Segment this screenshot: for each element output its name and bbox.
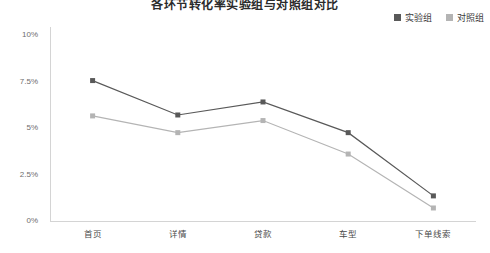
y-tick-label: 0%	[26, 216, 38, 225]
data-point-marker[interactable]	[346, 130, 351, 135]
chart-container: 各环节转化率实验组与对照组对比 实验组 对照组 0%2.5%5%7.5%10% …	[0, 0, 490, 253]
y-axis: 0%2.5%5%7.5%10%	[20, 27, 50, 225]
series-line-control	[93, 116, 434, 208]
x-tick-label: 下单线索	[415, 229, 451, 239]
data-point-marker[interactable]	[261, 118, 266, 123]
data-point-marker[interactable]	[90, 78, 95, 83]
data-point-marker[interactable]	[175, 130, 180, 135]
data-point-marker[interactable]	[346, 152, 351, 157]
y-tick-label: 2.5%	[20, 170, 38, 179]
x-tick-label: 车型	[339, 229, 357, 239]
data-point-marker[interactable]	[431, 205, 436, 210]
plot-area: 0%2.5%5%7.5%10% 首页详情贷款车型下单线索	[0, 0, 490, 253]
data-point-marker[interactable]	[175, 112, 180, 117]
data-point-marker[interactable]	[431, 193, 436, 198]
series-line-experiment	[93, 81, 434, 196]
y-tick-label: 5%	[26, 123, 38, 132]
data-point-marker[interactable]	[261, 99, 266, 104]
data-point-marker[interactable]	[90, 113, 95, 118]
x-tick-label: 首页	[84, 229, 102, 239]
y-tick-label: 10%	[22, 30, 38, 39]
x-axis: 首页详情贷款车型下单线索	[50, 221, 476, 239]
x-tick-label: 贷款	[254, 229, 272, 239]
y-tick-label: 7.5%	[20, 77, 38, 86]
data-series-group	[90, 78, 436, 210]
x-tick-label: 详情	[169, 229, 187, 239]
